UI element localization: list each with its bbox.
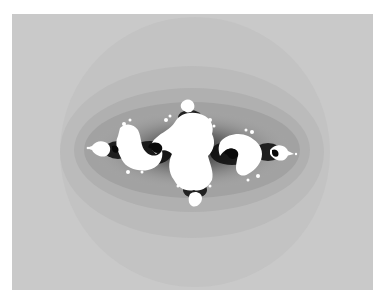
fractal-image: [12, 14, 373, 290]
julia-set-render: [12, 14, 373, 290]
